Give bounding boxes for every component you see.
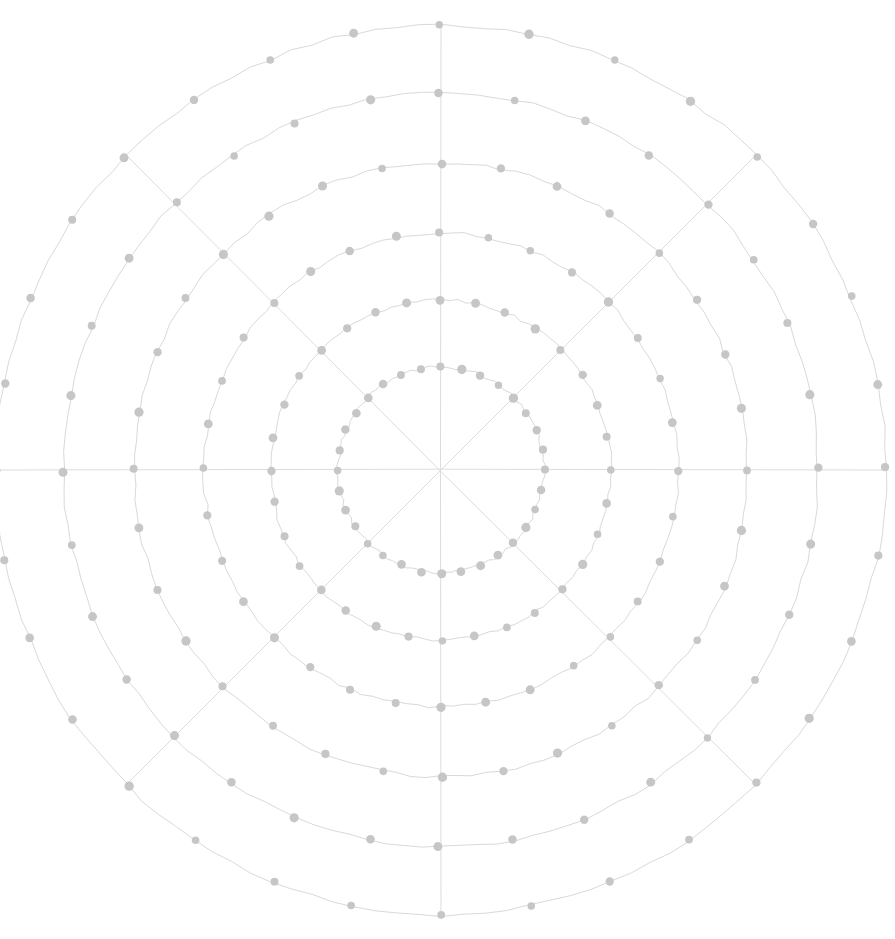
grid-vertex-dot [720, 582, 729, 591]
grid-vertex-dot [436, 296, 445, 305]
grid-vertex-dot [497, 164, 505, 172]
grid-vertex-dot [351, 522, 359, 530]
grid-vertex-dot [336, 446, 344, 454]
grid-vertex-dot [153, 586, 161, 594]
grid-vertex-dot [239, 597, 248, 606]
grid-vertex-dot [392, 232, 401, 241]
grid-vertex-dot [436, 703, 445, 712]
grid-vertex-dot [721, 350, 729, 358]
grid-vertex-dot [125, 254, 134, 263]
grid-vertex-dot [704, 200, 712, 208]
grid-vertex-dot [343, 324, 351, 332]
grid-vertex-dot [269, 433, 278, 442]
grid-vertex-dot [397, 371, 405, 379]
grid-vertex-dot [751, 676, 759, 684]
grid-vertex-dot [437, 569, 446, 578]
grid-vertex-dot [581, 117, 590, 126]
grid-vertex-dot [809, 220, 817, 228]
grid-vertex-dot [291, 119, 299, 127]
grid-vertex-dot [88, 322, 96, 330]
grid-vertex-dot [366, 95, 375, 104]
grid-vertex-dot [686, 97, 695, 106]
grid-vertex-dot [669, 513, 677, 521]
grid-vertex-dot [434, 89, 443, 98]
grid-vertex-dot [88, 612, 97, 621]
grid-vertex-dot [296, 562, 304, 570]
grid-vertex-dot [270, 299, 278, 307]
grid-vertex-dot [656, 557, 664, 565]
grid-vertex-dot [527, 247, 534, 254]
grid-vertex-dot [553, 182, 562, 191]
grid-vertex-dot [318, 182, 327, 191]
grid-vertex-dot [481, 698, 490, 707]
grid-vertex-dot [341, 506, 350, 515]
grid-vertex-dot [295, 372, 303, 380]
grid-vertex-dot [881, 463, 889, 471]
grid-vertex-dot [531, 324, 540, 333]
grid-vertex-dot [501, 308, 509, 316]
grid-vertex-dot [873, 380, 882, 389]
grid-vertex-dot [602, 499, 611, 508]
grid-vertex-dot [345, 247, 354, 256]
grid-vertex-dot [814, 463, 822, 471]
grid-vertex-dot [349, 29, 358, 38]
grid-vertex-dot [417, 568, 426, 577]
grid-vertex-dot [379, 552, 387, 560]
grid-vertex-dot [341, 606, 350, 615]
grid-vertex-dot [182, 294, 190, 302]
grid-vertex-dot [68, 715, 77, 724]
polar-grid-canvas [0, 0, 895, 939]
grid-vertex-dot [218, 377, 226, 385]
grid-vertex-dot [470, 632, 479, 641]
grid-vertex-dot [66, 391, 75, 400]
grid-vertex-dot [200, 464, 208, 472]
grid-vertex-dot [190, 96, 198, 104]
grid-vertex-dot [219, 682, 227, 690]
grid-vertex-dot [848, 292, 856, 300]
grid-vertex-dot [170, 731, 179, 740]
grid-vertex-dot [743, 467, 751, 475]
grid-vertex-dot [439, 637, 446, 644]
grid-vertex-dot [526, 685, 535, 694]
grid-vertex-dot [218, 557, 226, 565]
grid-vertex-dot [438, 160, 447, 169]
grid-vertex-dot [402, 298, 411, 307]
grid-vertex-dot [605, 209, 613, 217]
grid-vertex-dot [579, 371, 587, 379]
grid-vertex-dot [59, 468, 68, 477]
grid-vertex-dot [521, 523, 530, 532]
grid-vertex-dot [435, 229, 443, 237]
grid-vertex-dot [531, 506, 539, 514]
grid-vertex-dot [476, 561, 485, 570]
grid-vertex-dot [181, 636, 190, 645]
grid-vertex-dot [317, 346, 326, 355]
grid-vertex-dot [25, 634, 34, 643]
grid-vertex-dot [674, 467, 682, 475]
grid-vertex-dot [346, 686, 354, 694]
grid-vertex-dot [120, 153, 129, 162]
grid-vertex-dot [347, 902, 355, 910]
grid-vertex-dot [634, 597, 642, 605]
grid-vertex-dot [537, 486, 545, 494]
grid-vertex-dot [522, 409, 530, 417]
grid-vertex-dot [153, 348, 161, 356]
grid-vertex-dot [321, 750, 329, 758]
grid-vertex-dot [634, 334, 642, 342]
grid-vertex-dot [511, 97, 518, 104]
grid-vertex-dot [306, 663, 314, 671]
grid-vertex-dot [509, 393, 518, 402]
grid-vertex-dot [417, 365, 425, 373]
grid-vertex-dot [785, 611, 793, 619]
grid-vertex-dot [280, 400, 288, 408]
grid-vertex-dot [364, 540, 372, 548]
grid-vertex-dot [527, 902, 535, 910]
grid-vertex-dot [26, 294, 35, 303]
grid-vertex-dot [608, 722, 616, 730]
grid-vertex-dot [607, 633, 615, 641]
grid-vertex-dot [570, 662, 578, 670]
grid-vertex-dot [334, 467, 342, 475]
grid-vertex-dot [240, 334, 248, 342]
grid-vertex-dot [230, 152, 238, 160]
grid-vertex-dot [594, 530, 602, 538]
grid-vertex-dot [68, 541, 76, 549]
